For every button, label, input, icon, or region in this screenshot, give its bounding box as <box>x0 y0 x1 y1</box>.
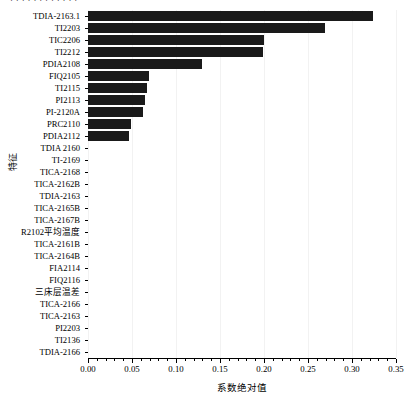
x-tick-label: 0.20 <box>244 364 284 374</box>
x-tick-minor <box>361 359 362 361</box>
bar-row <box>88 106 396 118</box>
bar <box>88 47 263 56</box>
y-tick-label: TI2203 <box>0 24 80 33</box>
x-tick-minor <box>370 359 371 361</box>
clipped-top-text: · · · · · · · · · · · · <box>0 0 408 7</box>
x-tick-minor <box>255 359 256 361</box>
y-tick-label: TICA-2162B <box>0 180 80 189</box>
y-tick-label: TI2212 <box>0 48 80 57</box>
bar <box>88 35 264 44</box>
bar-row <box>88 46 396 58</box>
x-tick-minor <box>229 359 230 361</box>
y-tick-label: TICA-2163 <box>0 312 80 321</box>
x-tick-minor <box>387 359 388 361</box>
x-tick-label: 0.10 <box>156 364 196 374</box>
y-tick-label: FIQ2116 <box>0 276 80 285</box>
y-tick-label: TI2136 <box>0 336 80 345</box>
y-tick-label: FIQ2105 <box>0 72 80 81</box>
y-tick-label: PI-2120A <box>0 108 80 117</box>
bar-row <box>88 250 396 262</box>
bar <box>88 95 145 104</box>
y-tick-label: TICA-2161B <box>0 240 80 249</box>
bar <box>88 23 325 32</box>
bar-row <box>88 166 396 178</box>
bar <box>88 107 143 116</box>
y-tick-label: PRC2110 <box>0 120 80 129</box>
bar-row <box>88 190 396 202</box>
y-tick-label: TDIA 2160 <box>0 144 80 153</box>
y-tick-label: PI2113 <box>0 96 80 105</box>
x-axis-spine <box>88 358 396 359</box>
y-tick-label: TICA-2166 <box>0 300 80 309</box>
bar <box>88 83 147 92</box>
x-tick-minor <box>114 359 115 361</box>
bar <box>88 119 131 128</box>
bar <box>88 131 129 140</box>
x-tick-minor <box>185 359 186 361</box>
y-tick-label: TI2115 <box>0 84 80 93</box>
x-tick-major <box>396 359 397 363</box>
bar-row <box>88 130 396 142</box>
x-tick-minor <box>326 359 327 361</box>
y-tick-label: TICA-2165B <box>0 204 80 213</box>
x-tick-major <box>220 359 221 363</box>
y-tick-label: TICA-2164B <box>0 252 80 261</box>
y-tick-label: TICA-2167B <box>0 216 80 225</box>
x-tick-major <box>132 359 133 363</box>
x-tick-minor <box>299 359 300 361</box>
bar <box>88 11 373 20</box>
bar-row <box>88 94 396 106</box>
y-tick-label: 三床层温差 <box>0 288 80 297</box>
x-tick-minor <box>246 359 247 361</box>
x-tick-major <box>264 359 265 363</box>
x-tick-major <box>88 359 89 363</box>
x-tick-major <box>352 359 353 363</box>
bar <box>88 59 202 68</box>
x-tick-minor <box>106 359 107 361</box>
x-tick-minor <box>211 359 212 361</box>
bar-row <box>88 202 396 214</box>
bar-row <box>88 346 396 358</box>
x-tick-minor <box>141 359 142 361</box>
bar-row <box>88 262 396 274</box>
bar-row <box>88 238 396 250</box>
bar-row <box>88 334 396 346</box>
x-tick-minor <box>334 359 335 361</box>
bar-row <box>88 34 396 46</box>
x-tick-minor <box>273 359 274 361</box>
x-tick-minor <box>150 359 151 361</box>
x-tick-minor <box>317 359 318 361</box>
bar-row <box>88 118 396 130</box>
bar-row <box>88 82 396 94</box>
x-axis-title: 系数绝对值 <box>88 380 396 394</box>
x-tick-label: 0.25 <box>288 364 328 374</box>
y-tick-label: TDIA-2166 <box>0 348 80 357</box>
y-tick-label: FIA2114 <box>0 264 80 273</box>
y-axis-tick-labels: TDIA-2163.1TI2203TIC2206TI2212PDIA2108FI… <box>0 10 84 358</box>
bar-row <box>88 298 396 310</box>
x-tick-minor <box>343 359 344 361</box>
x-tick-label: 0.35 <box>376 364 408 374</box>
bar-row <box>88 70 396 82</box>
x-tick-minor <box>158 359 159 361</box>
bar-row <box>88 142 396 154</box>
bar-row <box>88 322 396 334</box>
y-tick-label: TIC2206 <box>0 36 80 45</box>
x-tick-minor <box>97 359 98 361</box>
x-tick-label: 0.30 <box>332 364 372 374</box>
x-tick-minor <box>378 359 379 361</box>
y-tick-label: PI2203 <box>0 324 80 333</box>
x-tick-label: 0.15 <box>200 364 240 374</box>
x-tick-major <box>176 359 177 363</box>
x-tick-minor <box>282 359 283 361</box>
bar-row <box>88 10 396 22</box>
plot-area <box>88 10 396 358</box>
y-tick-label: PDIA2108 <box>0 60 80 69</box>
x-tick-minor <box>167 359 168 361</box>
bar-chart-figure: · · · · · · · · · · · · 特征 TDIA-2163.1TI… <box>0 0 408 400</box>
x-tick-minor <box>290 359 291 361</box>
y-tick-label: PDIA2112 <box>0 132 80 141</box>
x-tick-label: 0.00 <box>68 364 108 374</box>
x-tick-minor <box>123 359 124 361</box>
x-tick-minor <box>194 359 195 361</box>
